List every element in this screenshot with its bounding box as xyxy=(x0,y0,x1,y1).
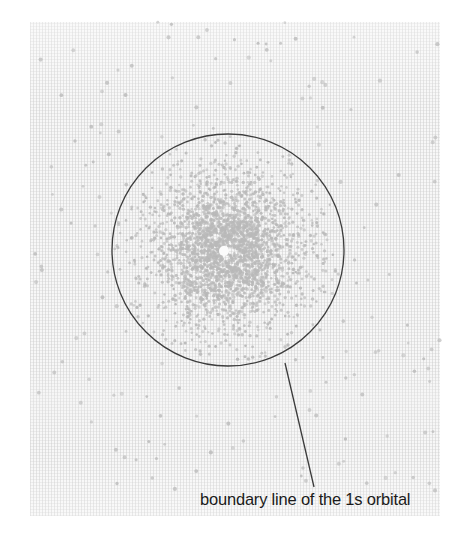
figure-root: boundary line of the 1s orbital xyxy=(0,0,461,537)
nucleus-marker xyxy=(219,246,229,256)
caption-boundary-line-label: boundary line of the 1s orbital xyxy=(200,490,410,509)
leader-line xyxy=(285,363,314,487)
orbital-plot xyxy=(0,0,461,537)
